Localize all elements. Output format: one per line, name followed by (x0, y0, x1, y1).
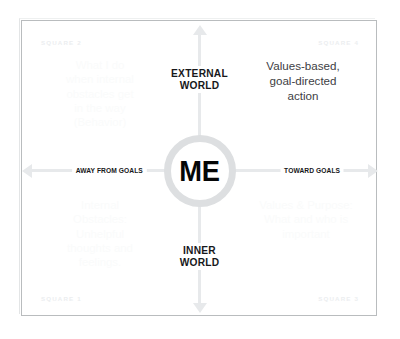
center-ring-icon: ME (164, 135, 236, 207)
arrow-right-icon (368, 164, 378, 178)
quadrant-text-square-1: Internal Obstacles: Unhelpful thoughts a… (46, 198, 154, 270)
corner-label-square-3: SQUARE 3 (318, 295, 359, 302)
quadrant-text-square-3: Values & Purpose: What and who is import… (242, 198, 370, 241)
quadrant-text-square-4: Values-based, goal-directed action (242, 58, 364, 103)
corner-label-square-1: SQUARE 1 (41, 295, 82, 302)
act-matrix-diagram: SQUARE 2 SQUARE 4 SQUARE 1 SQUARE 3 EXTE… (0, 0, 400, 339)
quadrant-text-square-2: What I do when internal obstacles get in… (46, 58, 154, 130)
arrow-left-icon (22, 164, 32, 178)
arrow-up-icon (193, 25, 207, 35)
arrow-down-icon (193, 303, 207, 313)
corner-label-square-4: SQUARE 4 (318, 39, 359, 46)
axis-caption-inner-world: INNER WORLD (175, 243, 225, 270)
axis-caption-away-from-goals: AWAY FROM GOALS (72, 163, 146, 177)
center-label-me: ME (179, 157, 219, 186)
axis-caption-toward-goals: TOWARD GOALS (281, 163, 344, 177)
axis-caption-external-world: EXTERNAL WORLD (166, 66, 233, 93)
corner-label-square-2: SQUARE 2 (41, 39, 82, 46)
